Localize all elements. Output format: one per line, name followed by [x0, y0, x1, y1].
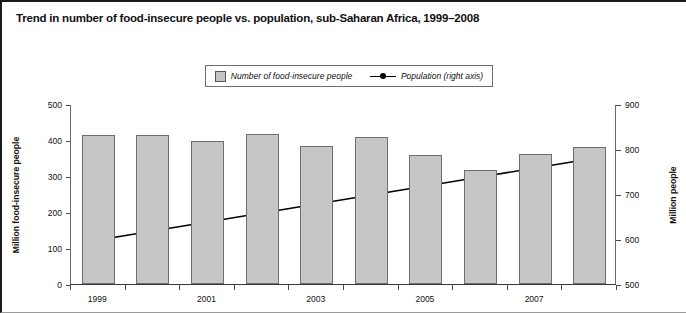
figure-frame: Trend in number of food-insecure people …	[0, 0, 686, 313]
x-axis-tick-9	[561, 285, 562, 290]
bar-2001	[191, 141, 224, 284]
plot-area	[70, 105, 616, 285]
bar-2002	[246, 134, 279, 284]
bar-2007	[519, 154, 552, 284]
x-axis-label-1999: 1999	[88, 294, 107, 304]
right-axis-label-600: 600	[625, 235, 639, 245]
right-axis-label-900: 900	[625, 100, 639, 110]
left-axis-label-0: 0	[57, 280, 62, 290]
x-axis-tick-4	[288, 285, 289, 290]
left-y-axis-title: Million food-insecure people	[11, 137, 21, 254]
left-axis-label-500: 500	[48, 100, 62, 110]
x-axis-tick-2	[179, 285, 180, 290]
square-swatch-icon	[215, 71, 226, 82]
x-axis-tick-8	[507, 285, 508, 290]
right-y-axis-title: Million people	[668, 166, 678, 223]
x-axis-label-2005: 2005	[415, 294, 434, 304]
x-axis-label-2007: 2007	[525, 294, 544, 304]
legend-item-line: Population (right axis)	[370, 71, 483, 81]
legend-item-bars: Number of food-insecure people	[215, 71, 352, 82]
x-axis-label-2001: 2001	[197, 294, 216, 304]
x-axis-tick-0	[70, 285, 71, 290]
x-axis-tick-3	[234, 285, 235, 290]
left-axis-label-400: 400	[48, 136, 62, 146]
bar-2000	[136, 135, 169, 284]
bar-2008	[573, 147, 606, 284]
line-marker-icon	[370, 72, 396, 81]
x-axis-tick-10	[616, 285, 617, 290]
x-axis-tick-5	[343, 285, 344, 290]
right-axis-label-500: 500	[625, 280, 639, 290]
legend-label-line: Population (right axis)	[401, 71, 483, 81]
legend-line-dot	[380, 73, 386, 79]
population-polyline	[98, 159, 589, 240]
x-axis-tick-7	[452, 285, 453, 290]
x-axis-tick-1	[125, 285, 126, 290]
x-axis-label-2003: 2003	[306, 294, 325, 304]
right-axis-label-800: 800	[625, 145, 639, 155]
bar-2006	[464, 170, 497, 284]
left-axis-label-100: 100	[48, 244, 62, 254]
x-axis-tick-6	[398, 285, 399, 290]
left-axis-label-200: 200	[48, 208, 62, 218]
chart-title: Trend in number of food-insecure people …	[16, 12, 479, 24]
bar-2004	[355, 137, 388, 284]
right-axis-label-700: 700	[625, 190, 639, 200]
bar-2005	[409, 155, 442, 284]
chart-legend: Number of food-insecure people Populatio…	[205, 65, 493, 87]
legend-label-bars: Number of food-insecure people	[231, 71, 352, 81]
bar-2003	[300, 146, 333, 284]
left-axis-label-300: 300	[48, 172, 62, 182]
bar-1999	[82, 135, 115, 284]
